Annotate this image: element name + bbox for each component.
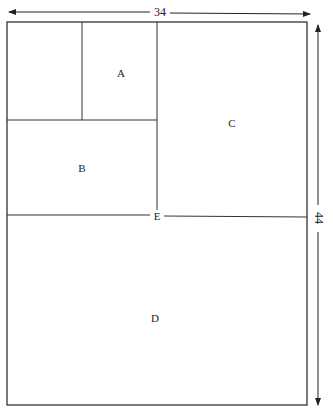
sheet-layout-diagram [0, 0, 333, 410]
width-label: 34 [151, 6, 169, 18]
region-b-label: B [78, 162, 85, 174]
height-label: 44 [313, 209, 325, 227]
line-e-right [164, 216, 307, 217]
region-a-label: A [117, 67, 125, 79]
region-c-label: C [228, 117, 235, 129]
region-d-label: D [151, 312, 159, 324]
width-arrow-right [170, 13, 310, 14]
line-e-label: E [152, 210, 163, 222]
